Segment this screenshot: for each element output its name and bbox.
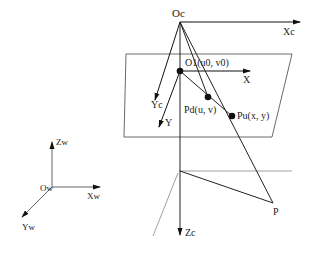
label-xw: Xw	[87, 191, 100, 201]
camera-model-diagram: Oc Xc Yc Zc O1(u0, v0) X Y Pd(u, v) Pu(x…	[0, 0, 312, 256]
yc-axis	[155, 22, 180, 100]
label-yc: Yc	[151, 99, 163, 110]
principal-point-dot	[177, 68, 184, 75]
label-xc: Xc	[283, 26, 295, 37]
ground-diagonal	[153, 173, 178, 236]
pd-dot	[205, 94, 212, 101]
label-y: Y	[165, 117, 172, 128]
pu-dot	[229, 113, 236, 120]
label-p: P	[273, 206, 279, 217]
label-zw: Zw	[56, 137, 68, 147]
label-yw: Yw	[22, 222, 35, 232]
label-o1: O1(u0, v0)	[185, 57, 229, 69]
label-zc: Zc	[185, 227, 196, 238]
label-pd: Pd(u, v)	[184, 104, 216, 116]
label-oc: Oc	[172, 7, 185, 19]
diagram-canvas: Oc Xc Yc Zc O1(u0, v0) X Y Pd(u, v) Pu(x…	[0, 0, 312, 256]
label-pu: Pu(x, y)	[237, 110, 269, 122]
label-x: X	[243, 74, 251, 85]
label-ow: Ow	[40, 183, 53, 193]
